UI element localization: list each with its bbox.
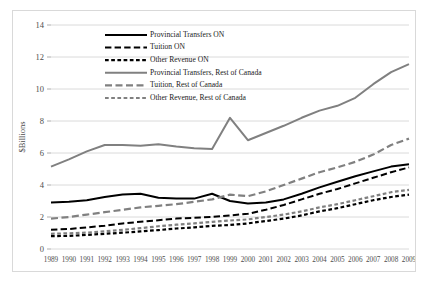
legend-label-3: Provincial Transfers, Rest of Canada: [150, 68, 262, 77]
x-axis-tick-label: 2008: [384, 256, 399, 264]
y-axis-tick-label: 12: [36, 52, 45, 62]
series-line-3: [51, 64, 409, 166]
y-axis-title: $Billions: [17, 121, 27, 152]
chart-legend: Provincial Transfers ONTuition ONOther R…: [105, 30, 262, 102]
chart-container: 02468101214 1989199019911992199319941995…: [0, 0, 428, 282]
y-axis-tick-label: 14: [36, 20, 45, 30]
legend-label-2: Other Revenue ON: [150, 55, 209, 64]
y-axis-title-text: $Billions: [17, 121, 27, 152]
x-axis-tick-label: 2003: [294, 256, 309, 264]
legend-label-1: Tuition ON: [150, 42, 185, 51]
y-axis-tick-label: 8: [40, 116, 44, 126]
x-axis-tick-label: 1993: [115, 256, 130, 264]
x-axis-tick-label: 1991: [80, 256, 95, 264]
x-axis-tick-label: 2005: [330, 256, 345, 264]
x-axis-tick-label: 1994: [133, 256, 148, 264]
line-chart: 02468101214 1989199019911992199319941995…: [13, 11, 415, 271]
x-axis-tick-label: 2004: [312, 256, 327, 264]
y-axis-tick-label: 4: [40, 180, 45, 190]
y-axis-tick-label: 10: [36, 84, 45, 94]
x-axis-tick-label: 1997: [187, 256, 202, 264]
x-axis-tick-label: 2000: [241, 256, 256, 264]
x-axis-tick-label: 2006: [348, 256, 363, 264]
y-axis-tick-label: 2: [40, 212, 44, 222]
y-axis-tick-label: 6: [40, 148, 44, 158]
chart-frame: 02468101214 1989199019911992199319941995…: [12, 10, 416, 272]
y-axis-ticks: [47, 25, 51, 249]
legend-label-5: Other Revenue, Rest of Canada: [150, 93, 247, 102]
data-series: [51, 64, 409, 236]
x-axis-tick-label: 1992: [98, 256, 113, 264]
x-axis-tick-label: 1999: [223, 256, 238, 264]
legend-label-4: Tuition, Rest of Canada: [150, 80, 223, 89]
x-axis-tick-label: 2002: [277, 256, 292, 264]
x-axis-tick-label: 1989: [44, 256, 59, 264]
gridlines: [51, 25, 409, 249]
x-axis-tick-label: 1996: [169, 256, 184, 264]
x-axis-tick-label: 2001: [259, 256, 274, 264]
y-axis-tick-label: 0: [40, 244, 44, 254]
y-axis-labels: 02468101214: [36, 20, 45, 254]
x-axis-tick-label: 1995: [151, 256, 166, 264]
x-axis-tick-label: 1990: [62, 256, 77, 264]
legend-label-0: Provincial Transfers ON: [150, 30, 225, 39]
x-axis-tick-label: 2007: [366, 256, 381, 264]
x-axis-tick-label: 1998: [205, 256, 220, 264]
x-axis-labels: 1989199019911992199319941995199619971998…: [44, 256, 415, 264]
series-line-4: [51, 139, 409, 219]
x-axis-tick-label: 2009: [402, 256, 415, 264]
